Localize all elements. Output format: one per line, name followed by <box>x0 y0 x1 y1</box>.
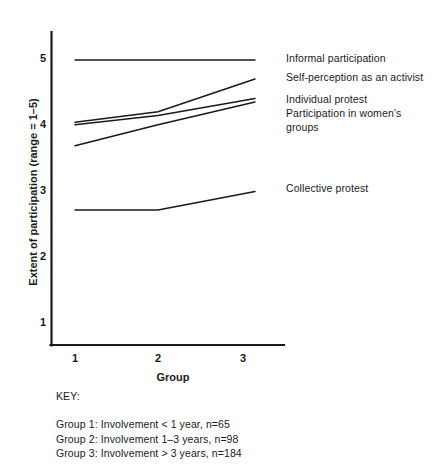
key-line-group-2: Group 2: Involvement 1–3 years, n=98 <box>56 432 242 447</box>
key-block: KEY: Group 1: Involvement < 1 year, n=65… <box>56 390 242 461</box>
y-axis-title: Extent of participation (range = 1–5) <box>27 97 39 287</box>
x-axis-title: Group <box>143 371 203 383</box>
series-line-womens-groups <box>75 102 255 146</box>
label-collective-protest: Collective protest <box>286 181 368 195</box>
x-tick-label-1: 1 <box>65 352 85 364</box>
key-line-group-3: Group 3: Involvement > 3 years, n=184 <box>56 446 242 461</box>
series-line-collective-protest <box>75 192 255 210</box>
x-tick-label-2: 2 <box>148 352 168 364</box>
x-tick-label-3: 3 <box>233 352 253 364</box>
label-self-perception: Self-perception as an activist <box>286 70 423 84</box>
label-informal-participation: Informal participation <box>286 51 386 65</box>
series-line-self-perception <box>75 79 255 122</box>
series-line-individual-protest <box>75 99 255 125</box>
y-tick-label-5: 5 <box>30 52 46 64</box>
key-heading: KEY: <box>56 390 242 402</box>
key-line-group-1: Group 1: Involvement < 1 year, n=65 <box>56 417 242 432</box>
chart-figure: 5 4 3 2 1 1 2 3 Group Extent of particip… <box>0 0 448 468</box>
label-individual-protest-and-womens-groups: Individual protest Participation in wome… <box>286 92 401 134</box>
y-tick-label-1: 1 <box>30 316 46 328</box>
